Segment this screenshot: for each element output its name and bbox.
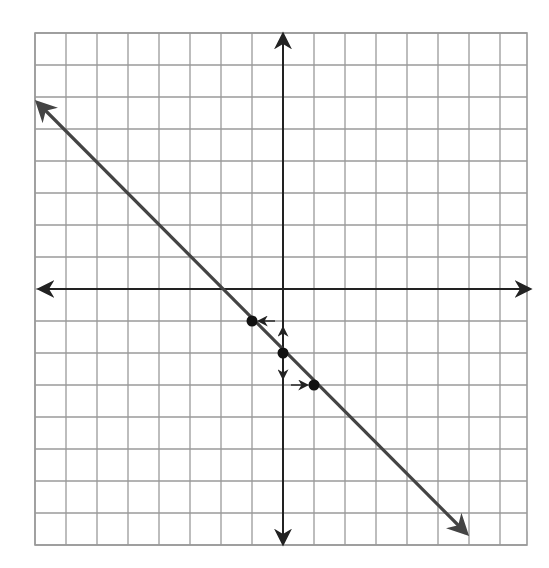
- plotted-point: [278, 348, 289, 359]
- plotted-point: [247, 316, 258, 327]
- axes: [40, 35, 529, 543]
- coordinate-plane: [0, 0, 549, 568]
- plotted-point: [309, 380, 320, 391]
